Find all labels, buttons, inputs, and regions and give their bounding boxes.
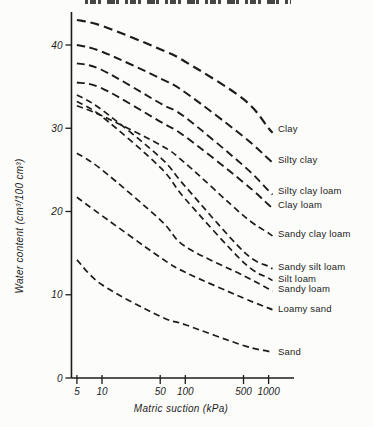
x-tick-label: 1000 xyxy=(257,386,280,397)
curve-group xyxy=(77,20,273,352)
curve-silty-clay-loam xyxy=(77,63,273,194)
curve-label-silt-loam: Silt loam xyxy=(278,273,316,284)
curve-sandy-clay-loam xyxy=(77,106,273,236)
x-tick-label: 100 xyxy=(177,386,194,397)
retention-curves-plot: 010203040510501005001000 xyxy=(0,0,373,427)
x-tick-label: 50 xyxy=(155,386,167,397)
curve-silt-loam xyxy=(77,102,273,281)
curve-label-silty-clay: Silty clay xyxy=(278,154,317,165)
curve-label-sandy-clay-loam: Sandy clay loam xyxy=(278,228,351,239)
axes xyxy=(65,12,294,384)
y-tick-label: 10 xyxy=(51,289,63,300)
x-tick-label: 5 xyxy=(74,386,80,397)
y-tick-label: 40 xyxy=(51,40,63,51)
y-tick-label: 30 xyxy=(51,123,63,134)
curve-label-loamy-sand: Loamy sand xyxy=(278,303,332,314)
x-axis-title: Matric suction (kPa) xyxy=(134,403,228,414)
x-tick-label: 500 xyxy=(235,386,252,397)
curve-clay xyxy=(77,20,273,133)
y-axis-title: Water content (cm³/100 cm³) xyxy=(14,158,25,293)
curve-label-clay: Clay xyxy=(278,123,298,134)
curve-loamy-sand xyxy=(77,197,273,309)
curve-label-clay-loam: Clay loam xyxy=(278,199,322,210)
curve-label-sandy-loam: Sandy loam xyxy=(278,283,330,294)
curve-label-silty-clay-loam: Silty clay loam xyxy=(278,185,342,196)
x-tick-label: 10 xyxy=(96,386,108,397)
y-tick-label: 20 xyxy=(50,206,63,217)
curve-silty-clay xyxy=(77,45,273,163)
curve-label-sandy-silt-loam: Sandy silt loam xyxy=(278,261,345,272)
curve-clay-loam xyxy=(77,83,273,209)
y-tick-label: 0 xyxy=(57,373,63,384)
soil-water-retention-figure: 010203040510501005001000 Water content (… xyxy=(0,0,373,427)
curve-sand xyxy=(77,260,273,353)
curve-label-sand: Sand xyxy=(278,346,301,357)
